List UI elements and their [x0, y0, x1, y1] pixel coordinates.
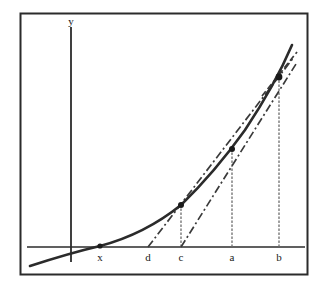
- x-tick-label-a: a: [230, 251, 235, 263]
- x-tick-label-d: d: [145, 251, 151, 263]
- function-graph-figure: y x d c a b: [0, 0, 327, 294]
- figure-container: y x d c a b: [0, 0, 327, 294]
- x-tick-label-x: x: [97, 251, 103, 263]
- figure-border: [21, 14, 308, 275]
- y-axis-label: y: [68, 15, 74, 27]
- point-marker-b: [276, 74, 283, 81]
- point-marker-x: [97, 243, 102, 248]
- x-tick-label-c: c: [179, 251, 184, 263]
- x-tick-label-b: b: [276, 251, 282, 263]
- point-marker-c: [178, 202, 184, 208]
- point-marker-a: [229, 146, 235, 152]
